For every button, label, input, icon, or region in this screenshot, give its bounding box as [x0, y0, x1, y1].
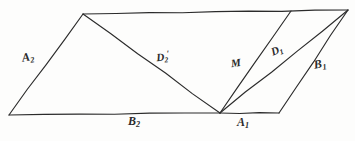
- diagonal-D2prime: [83, 14, 220, 113]
- label-M-base: M: [230, 56, 241, 69]
- figure-canvas: [0, 0, 355, 141]
- bottom-edge-B2: [9, 113, 220, 115]
- label-A1-base: A: [237, 115, 245, 129]
- label-B2-subscript: 2: [136, 120, 140, 129]
- label-B1: B1: [313, 57, 327, 73]
- bottom-edge-A1: [220, 113, 279, 114]
- label-A1: A1: [237, 116, 249, 130]
- geometry-figure: A2 B2 A1 B1 D2′ M D1: [0, 0, 355, 141]
- label-M: M: [230, 57, 241, 71]
- side-A2: [9, 14, 83, 115]
- label-A2: A2: [21, 50, 35, 66]
- label-A1-subscript: 1: [245, 121, 249, 130]
- top-edge: [83, 10, 348, 14]
- label-B2-base: B: [128, 114, 136, 128]
- label-B2: B2: [128, 115, 140, 129]
- label-D2-prime: D2′: [156, 49, 171, 65]
